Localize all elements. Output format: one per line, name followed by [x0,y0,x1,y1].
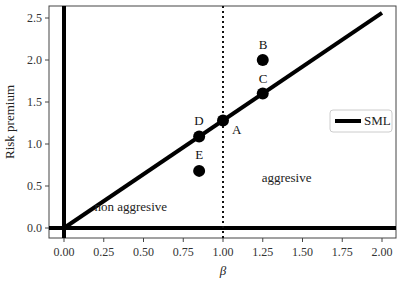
x-tick-label: 0.50 [133,245,154,259]
point-label: C [259,71,268,86]
point-label: B [259,37,268,52]
y-tick-label: 1.5 [27,95,42,109]
x-tick-label: 1.25 [252,245,273,259]
x-tick-label: 2.00 [372,245,393,259]
legend: SML [330,110,392,132]
x-tick-label: 1.50 [292,245,313,259]
point-label: A [232,122,242,137]
data-point-c [257,88,269,100]
x-axis-label: β [219,263,227,278]
x-tick-label: 0.00 [54,245,75,259]
y-tick-label: 2.0 [27,53,42,67]
x-tick-label: 0.25 [93,245,114,259]
y-tick-label: 2.5 [27,11,42,25]
region-label: aggresive [262,170,312,185]
y-axis-ticks: 0.00.51.01.52.02.5 [27,11,49,235]
data-point-b [257,54,269,66]
sml-chart: 0.00.51.01.52.02.5 0.000.250.500.751.001… [0,0,401,290]
region-label: non aggresive [94,199,167,214]
x-tick-label: 1.00 [213,245,234,259]
y-tick-label: 0.0 [27,221,42,235]
data-points: ABCDE [193,37,269,177]
data-point-a [217,114,229,126]
y-axis-label: Risk premium [2,85,17,159]
point-label: D [194,113,203,128]
legend-label-sml: SML [364,113,391,128]
data-point-e [193,165,205,177]
x-axis-ticks: 0.000.250.500.751.001.251.501.752.00 [54,238,393,259]
x-tick-label: 0.75 [173,245,194,259]
data-point-d [193,130,205,142]
region-annotations: non aggresiveaggresive [94,170,311,214]
y-tick-label: 0.5 [27,179,42,193]
y-tick-label: 1.0 [27,137,42,151]
point-label: E [195,147,203,162]
x-tick-label: 1.75 [332,245,353,259]
